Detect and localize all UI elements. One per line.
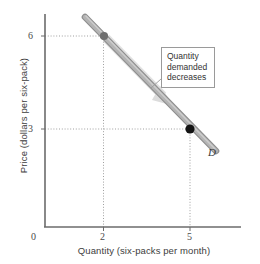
data-point-upper [100, 32, 108, 40]
x-axis-tick-0: 0 [31, 232, 36, 242]
y-axis-tick-3: 3 [28, 124, 33, 134]
callout-line-1: Quantity [167, 51, 210, 62]
y-axis-tick-6: 6 [28, 31, 33, 41]
x-axis-tick-2: 2 [100, 232, 105, 242]
callout-line-3: decreases [167, 72, 210, 83]
y-axis-title: Price (dollars per six-pack) [18, 41, 29, 191]
data-point-lower [185, 124, 194, 133]
x-axis-title: Quantity (six-packs per month) [44, 245, 244, 256]
quantity-demanded-callout: Quantity demanded decreases [161, 47, 215, 88]
x-axis-tick-5: 5 [187, 232, 192, 242]
demand-curve-figure: 6 3 0 2 5 Price (dollars per six-pack) Q… [0, 0, 260, 264]
chart-canvas [0, 0, 260, 264]
callout-line-2: demanded [167, 62, 210, 73]
axes [44, 14, 241, 227]
demand-curve-label: D [208, 146, 216, 158]
